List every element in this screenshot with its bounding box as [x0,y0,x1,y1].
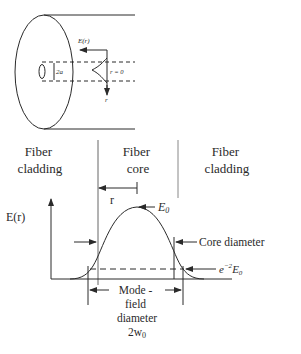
threshold-label: e−2E0 [219,262,243,277]
core-diameter-2a-label: 2a [56,68,64,76]
region-labels: Fiber cladding Fiber core Fiber cladding [18,144,250,176]
core-end-face [39,65,45,79]
left-cladding-label: Fiber cladding [18,144,63,176]
peak-e0-label: E0 [157,200,169,215]
top-field-label: E(r) [77,37,90,45]
gaussian-field-profile [70,207,204,279]
y-axis-label: E(r) [6,210,25,224]
mfd-symbol: 2w0 [128,326,146,340]
fiber-end-face [15,15,73,129]
radial-r-label: r [105,96,108,104]
core-label: Fiber core [123,144,154,176]
core-diameter-label: Core diameter [199,236,265,248]
right-cladding-label: Fiber cladding [205,144,250,176]
fiber-mode-field-diagram: E(r) 2a r = 0 r Fiber cladding Fiber cor… [0,0,301,354]
mode-field-diameter-label: Mode - field diameter [117,284,157,324]
r-label: r [110,193,114,207]
axis-r0-label: r = 0 [110,68,124,75]
